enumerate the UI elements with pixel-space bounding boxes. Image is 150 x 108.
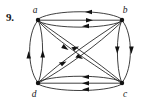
vertex-label-c: c xyxy=(123,89,128,99)
edge-c-to-d-upper xyxy=(39,76,121,81)
vertex-label-b: b xyxy=(123,5,128,15)
arrowhead-a-to-b-middle xyxy=(86,18,93,22)
edge-d-to-a-inner xyxy=(39,21,43,82)
edge-group-a-b xyxy=(39,10,121,28)
directed-graph-figure: a b c d xyxy=(0,0,150,108)
arrowhead-c-to-d-middle xyxy=(82,81,89,85)
edge-d-to-a-outer xyxy=(30,21,38,82)
vertex-d xyxy=(36,81,40,85)
arrowhead-d-to-b-lower xyxy=(59,62,67,67)
vertex-b xyxy=(120,18,124,22)
edge-c-to-d-lower xyxy=(39,85,121,91)
vertex-label-a: a xyxy=(33,5,38,15)
vertex-c xyxy=(120,81,124,85)
vertex-label-d: d xyxy=(32,89,37,99)
edge-group-d-a xyxy=(27,21,46,82)
edge-a-to-c-lower xyxy=(40,23,121,83)
edge-group-a-c-diagonals xyxy=(40,22,122,83)
edge-group-b-c xyxy=(115,21,134,82)
figure-container: 9. xyxy=(0,0,150,108)
arrowhead-d-to-a-outer xyxy=(27,51,31,58)
edge-b-to-a-upper xyxy=(39,12,121,19)
edge-a-to-c-upper xyxy=(40,22,122,82)
arrowhead-c-to-d-upper xyxy=(82,75,89,79)
arrowhead-b-to-c-outer xyxy=(129,47,134,54)
edge-d-to-b-lower xyxy=(40,23,122,83)
vertex-a xyxy=(36,18,40,22)
arrowhead-b-to-a-lower xyxy=(82,24,89,28)
arrowhead-b-to-a-upper xyxy=(85,10,92,14)
edge-b-to-a-lower xyxy=(39,22,121,28)
edge-group-d-c xyxy=(39,75,121,92)
edge-b-to-c-outer xyxy=(123,21,131,82)
arrowhead-b-to-c-inner xyxy=(115,47,120,54)
arrowhead-a-to-c-lower xyxy=(61,44,68,50)
arrowhead-d-to-a-inner xyxy=(40,50,45,57)
